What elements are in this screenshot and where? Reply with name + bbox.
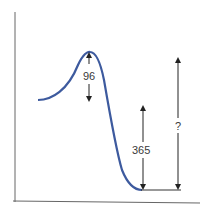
x-axis (13, 201, 200, 203)
unknown-label: ? (175, 119, 181, 133)
energy-diagram (0, 0, 202, 213)
product-drop-label: 365 (132, 143, 150, 157)
activation-energy-label: 96 (83, 69, 95, 83)
